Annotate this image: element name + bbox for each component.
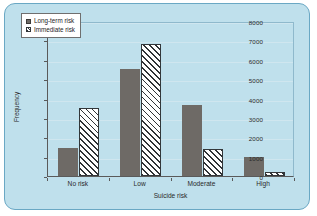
y-axis-label: Frequency — [13, 91, 20, 121]
y-tick-mark — [44, 61, 47, 62]
x-tick-label: No risk — [68, 180, 89, 187]
y-tick-mark — [44, 138, 47, 139]
legend-swatch-icon — [26, 19, 31, 24]
bar — [79, 108, 99, 176]
y-tick-label: 3000 — [249, 115, 263, 122]
legend-item-immediate-risk: Immediate risk — [26, 26, 75, 35]
chart-legend: Long-term risk Immediate risk — [21, 13, 81, 38]
x-tick-label: High — [256, 180, 270, 187]
legend-swatch-icon — [26, 27, 31, 32]
x-tick-mark — [109, 178, 110, 181]
y-tick-mark — [44, 100, 47, 101]
y-tick-label: 7000 — [249, 38, 263, 45]
y-tick-label: 2000 — [249, 135, 263, 142]
x-tick-mark — [294, 178, 295, 181]
y-tick-label: 5000 — [249, 77, 263, 84]
x-tick-mark — [232, 178, 233, 181]
bar — [182, 105, 202, 176]
x-tick-label: Low — [134, 180, 146, 187]
x-tick-mark — [171, 178, 172, 181]
legend-item-label: Immediate risk — [34, 26, 75, 35]
y-tick-label: 1000 — [249, 154, 263, 161]
y-tick-mark — [44, 41, 47, 42]
y-tick-label: 4000 — [249, 96, 263, 103]
x-tick-mark — [47, 178, 48, 181]
y-tick-mark — [44, 119, 47, 120]
legend-item-long-term-risk: Long-term risk — [26, 17, 75, 26]
x-axis-label: Suicide risk — [47, 192, 294, 199]
y-tick-mark — [44, 158, 47, 159]
bar — [141, 44, 161, 176]
bar — [203, 149, 223, 176]
y-tick-label: 8000 — [249, 19, 263, 26]
y-tick-label: 6000 — [249, 57, 263, 64]
x-tick-label: Moderate — [187, 180, 215, 187]
bar — [120, 69, 140, 176]
bar — [265, 172, 285, 176]
chart-figure: Frequency 010002000300040005000600070008… — [4, 3, 310, 210]
bar — [58, 148, 78, 176]
legend-item-label: Long-term risk — [34, 17, 74, 26]
y-tick-mark — [44, 80, 47, 81]
